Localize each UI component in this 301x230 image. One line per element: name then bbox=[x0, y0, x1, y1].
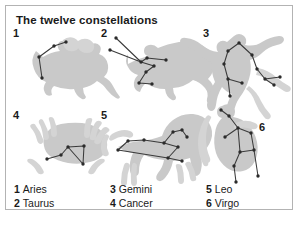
figure-panel: The twelve constellations bbox=[5, 5, 293, 210]
legend-label-aries: Aries bbox=[23, 183, 47, 195]
legend-label-taurus: Taurus bbox=[23, 197, 55, 209]
legend-item-aries: 1Aries bbox=[14, 182, 54, 196]
legend-item-virgo: 6Virgo bbox=[206, 196, 239, 210]
cell-number-1: 1 bbox=[13, 27, 19, 39]
constellation-cancer bbox=[27, 117, 109, 174]
constellation-figure: The twelve constellations bbox=[0, 0, 301, 230]
legend-item-taurus: 2Taurus bbox=[14, 196, 54, 210]
legend-item-cancer: 4Cancer bbox=[110, 196, 153, 210]
legend-number-2: 2 bbox=[14, 197, 20, 209]
legend-label-virgo: Virgo bbox=[215, 197, 239, 209]
constellation-illustrations bbox=[6, 6, 294, 211]
legend-column-3: 5Leo 6Virgo bbox=[206, 182, 239, 210]
legend-label-cancer: Cancer bbox=[119, 197, 153, 209]
legend-label-gemini: Gemini bbox=[119, 183, 152, 195]
gemini-arm-shade bbox=[246, 68, 291, 119]
cell-number-5: 5 bbox=[101, 109, 107, 121]
cell-number-3: 3 bbox=[203, 27, 209, 39]
legend-number-5: 5 bbox=[206, 183, 212, 195]
legend-number-4: 4 bbox=[110, 197, 116, 209]
legend-column-1: 1Aries 2Taurus bbox=[14, 182, 54, 210]
legend-label-leo: Leo bbox=[215, 183, 233, 195]
legend-number-6: 6 bbox=[206, 197, 212, 209]
legend-number-3: 3 bbox=[110, 183, 116, 195]
legend-number-1: 1 bbox=[14, 183, 20, 195]
cell-number-2: 2 bbox=[101, 27, 107, 39]
constellation-leo bbox=[101, 114, 212, 186]
constellation-aries bbox=[32, 37, 120, 99]
cell-number-4: 4 bbox=[13, 109, 19, 121]
legend-item-leo: 5Leo bbox=[206, 182, 239, 196]
cell-number-6: 6 bbox=[259, 121, 265, 133]
legend-column-2: 3Gemini 4Cancer bbox=[110, 182, 153, 210]
legend-item-gemini: 3Gemini bbox=[110, 182, 153, 196]
